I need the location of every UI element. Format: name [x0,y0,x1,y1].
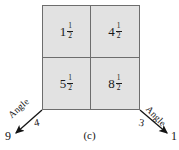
whole-part: 4 [108,25,115,38]
grid-cell-top-right: 4 1 2 [91,6,139,58]
fraction-denominator: 2 [116,32,122,40]
whole-part: 8 [108,77,115,90]
mixed-number-bottom-left: 5 1 2 [60,74,73,92]
fraction-denominator: 2 [67,32,73,40]
left-angle-inner-number: 4 [33,117,40,129]
fraction-one-half: 1 2 [116,74,122,92]
fraction-numerator: 1 [116,22,122,30]
value-grid: 1 1 2 4 1 2 5 1 [42,5,140,110]
fraction-numerator: 1 [116,74,122,82]
figure-panel-c: 1 1 2 4 1 2 5 1 [0,0,179,150]
mixed-number-top-left: 1 1 2 [60,22,73,40]
fraction-numerator: 1 [67,74,73,82]
fraction-denominator: 2 [116,84,122,92]
fraction-numerator: 1 [67,22,73,30]
figure-caption: (c) [0,129,179,141]
grid-cell-bottom-left: 5 1 2 [43,58,91,110]
right-angle-label: Angle [144,104,168,128]
fraction-one-half: 1 2 [67,22,73,40]
whole-part: 5 [60,77,67,90]
right-angle-inner-number: 3 [138,117,145,129]
mixed-number-bottom-right: 8 1 2 [108,74,121,92]
grid-cell-top-left: 1 1 2 [43,6,91,58]
fraction-one-half: 1 2 [67,74,73,92]
whole-part: 1 [60,25,67,38]
left-angle-label: Angle [6,96,31,120]
grid-cell-bottom-right: 8 1 2 [91,58,139,110]
fraction-denominator: 2 [67,84,73,92]
fraction-one-half: 1 2 [116,22,122,40]
mixed-number-top-right: 4 1 2 [108,22,121,40]
